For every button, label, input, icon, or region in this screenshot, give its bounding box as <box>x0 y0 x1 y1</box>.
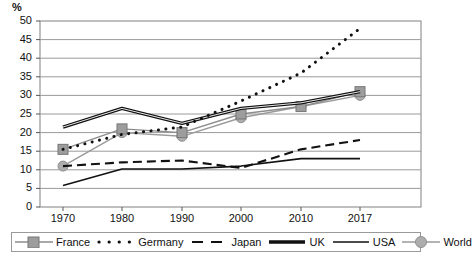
legend-item-japan[interactable]: Japan <box>191 236 262 248</box>
legend-label: Germany <box>138 236 183 248</box>
legend-item-uk[interactable]: UK <box>268 236 324 248</box>
legend-swatch-uk-icon <box>268 236 306 248</box>
legend-item-france[interactable]: France <box>15 236 90 248</box>
legend-label: USA <box>373 236 396 248</box>
legend-item-germany[interactable]: Germany <box>97 236 183 248</box>
legend-swatch-japan-icon <box>191 236 229 248</box>
legend-swatch-germany-icon <box>97 236 135 248</box>
legend-swatch-france-icon <box>15 236 53 248</box>
legend-label: Japan <box>232 236 262 248</box>
legend-swatch-usa-icon <box>332 236 370 248</box>
legend-item-usa[interactable]: USA <box>332 236 396 248</box>
legend-label: France <box>56 236 90 248</box>
legend-item-world[interactable]: World <box>402 236 472 248</box>
legend-label: World <box>443 236 472 248</box>
series-marker-france <box>117 124 127 134</box>
legend-label: UK <box>309 236 324 248</box>
legend-swatch-world-icon <box>402 236 440 248</box>
series-marker-france <box>177 128 187 138</box>
chart-legend: FranceGermanyJapanUKUSAWorld <box>11 232 421 252</box>
